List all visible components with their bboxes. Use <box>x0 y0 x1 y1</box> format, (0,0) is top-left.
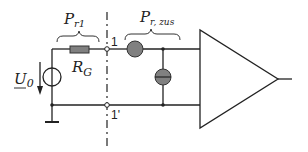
terminal-node-1 <box>105 47 110 52</box>
resistor-rg-icon <box>70 46 89 53</box>
label-p-rzus: Pr, zus <box>139 8 175 27</box>
series-noise-source-icon <box>127 41 143 57</box>
junction-dot <box>50 103 54 107</box>
terminal-node-1-prime <box>105 103 110 108</box>
label-p-r1: Pr1 <box>63 10 85 29</box>
label-node-1: 1 <box>111 35 118 49</box>
amplifier-triangle <box>200 30 278 128</box>
junction-dot <box>161 103 165 107</box>
label-u0: U0 <box>14 70 34 90</box>
voltage-arrow-icon <box>37 62 43 95</box>
brace-przus <box>125 29 180 40</box>
junction-dot <box>161 47 165 51</box>
circuit-diagram: Pr1 Pr, zus RG U0 1 1' <box>0 0 308 152</box>
label-node-1-prime: 1' <box>111 108 120 122</box>
brace-pr1 <box>57 31 99 42</box>
label-rg: RG <box>71 58 92 79</box>
